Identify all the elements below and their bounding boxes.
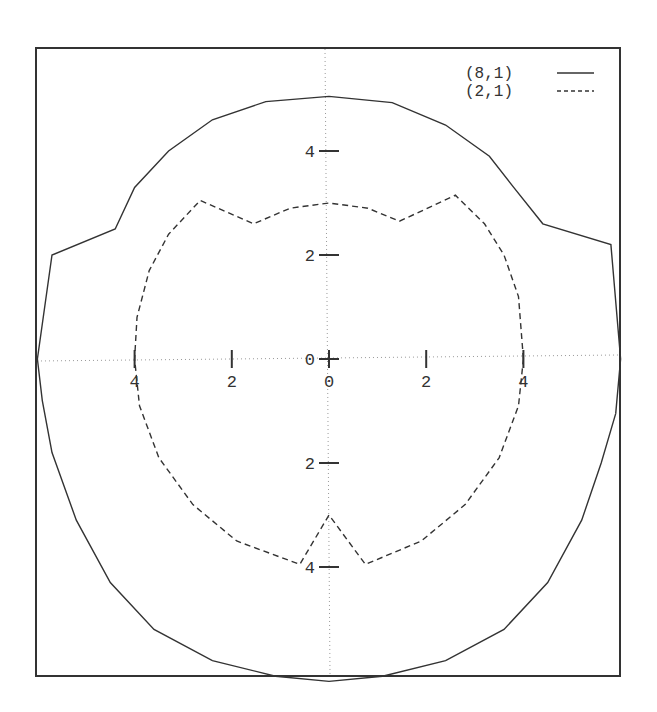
polar-plot: 4202442024 (8,1)(2,1) xyxy=(0,0,657,712)
y-tick-label: 4 xyxy=(305,559,315,578)
y-tick-label: 4 xyxy=(305,143,315,162)
legend-label: (8,1) xyxy=(465,65,513,83)
legend: (8,1)(2,1) xyxy=(465,65,594,101)
x-tick-label: 2 xyxy=(227,373,237,392)
x-tick-label: 0 xyxy=(324,373,334,392)
x-tick-label: 2 xyxy=(421,373,431,392)
y-tick-label: 0 xyxy=(305,351,315,370)
y-tick-label: 2 xyxy=(305,247,315,266)
y-tick-label: 2 xyxy=(305,455,315,474)
legend-label: (2,1) xyxy=(465,83,513,101)
